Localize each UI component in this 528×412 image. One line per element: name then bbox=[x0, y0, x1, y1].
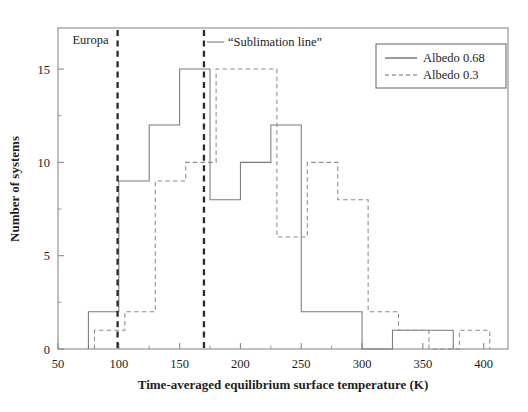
x-tick-label-100: 100 bbox=[109, 357, 128, 371]
equilibrium-temperature-histogram: 50100150200250300350400 051015 Europa “S… bbox=[0, 0, 528, 412]
y-tick-label-5: 5 bbox=[44, 249, 50, 263]
europa-annotation-label: Europa bbox=[72, 33, 109, 47]
legend-label-albedo-068: Albedo 0.68 bbox=[423, 51, 485, 65]
legend[interactable]: Albedo 0.68 Albedo 0.3 bbox=[376, 44, 506, 88]
histogram-outline-albedo-0-68 bbox=[88, 69, 453, 349]
legend-label-albedo-03: Albedo 0.3 bbox=[423, 68, 479, 82]
x-tick-label-250: 250 bbox=[292, 357, 311, 371]
sublimation-annotation-label: “Sublimation line” bbox=[228, 35, 322, 49]
y-tick-label-15: 15 bbox=[38, 63, 51, 77]
x-tick-label-150: 150 bbox=[170, 357, 189, 371]
y-tick-label-0: 0 bbox=[44, 343, 50, 357]
histogram-outline-albedo-0-3 bbox=[94, 69, 489, 349]
x-tick-label-350: 350 bbox=[413, 357, 432, 371]
x-tick-label-300: 300 bbox=[353, 357, 372, 371]
x-tick-label-400: 400 bbox=[474, 357, 493, 371]
histogram-figure: 50100150200250300350400 051015 Europa “S… bbox=[0, 0, 528, 412]
x-tick-label-50: 50 bbox=[52, 357, 65, 371]
y-axis-ticks: 051015 bbox=[38, 63, 65, 357]
x-axis-title: Time-averaged equilibrium surface temper… bbox=[138, 377, 429, 392]
histogram-series bbox=[88, 69, 489, 349]
y-tick-label-10: 10 bbox=[38, 156, 51, 170]
annotation-lines bbox=[118, 30, 204, 349]
x-tick-label-200: 200 bbox=[231, 357, 250, 371]
y-axis-title: Number of systems bbox=[7, 136, 22, 242]
